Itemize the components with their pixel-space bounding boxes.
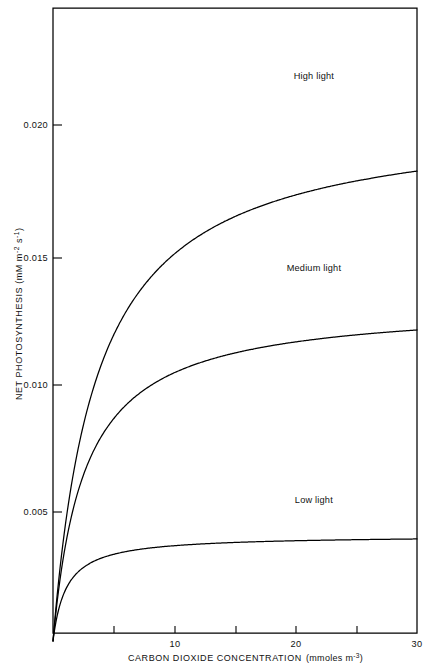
y-tick-label-0010: 0.010 xyxy=(24,380,49,390)
curve-medium-light xyxy=(53,330,417,641)
y-axis-ticks xyxy=(53,125,62,512)
curve-high-light xyxy=(53,171,417,641)
chart-canvas: 0.005 0.010 0.015 0.020 10 20 30 High xyxy=(0,0,429,664)
x-axis-tick-labels: 10 20 30 xyxy=(170,639,423,649)
y-title-exponent-2: -1 xyxy=(13,231,20,238)
y-title-close: ) xyxy=(14,228,24,232)
x-axis-title-main: CARBON DIOXIDE CONCENTRATION xyxy=(128,653,302,663)
x-tick-label-30: 30 xyxy=(412,639,423,649)
x-tick-label-10: 10 xyxy=(170,639,181,649)
x-units-open: (mmoles m xyxy=(306,653,353,663)
x-axis-title: CARBON DIOXIDE CONCENTRATION (mmoles m-3… xyxy=(128,652,363,663)
y-tick-label-0015: 0.015 xyxy=(24,253,49,263)
figure-container: 0.005 0.010 0.015 0.020 10 20 30 High xyxy=(0,0,429,664)
y-axis-title: NET PHOTOSYNTHESIS (mM m-2 s-1) xyxy=(13,228,24,401)
y-tick-label-0020: 0.020 xyxy=(24,120,49,130)
x-units-close: ) xyxy=(360,653,363,663)
curve-label-low-light: Low light xyxy=(295,495,333,505)
y-axis-title-text: NET PHOTOSYNTHESIS (mM m-2 s-1) xyxy=(13,228,24,401)
x-axis-ticks xyxy=(114,626,357,633)
y-title-main: NET PHOTOSYNTHESIS (mM m xyxy=(14,253,24,400)
y-title-mid: s xyxy=(14,238,24,246)
curve-low-light xyxy=(53,539,417,641)
x-tick-label-20: 20 xyxy=(291,639,302,649)
curve-label-high-light: High light xyxy=(294,71,335,81)
y-tick-label-0005: 0.005 xyxy=(24,507,49,517)
curve-labels: High light Medium light Low light xyxy=(287,71,342,505)
x-axis-title-units: (mmoles m-3) xyxy=(306,652,363,663)
data-curves xyxy=(53,171,417,641)
y-axis-tick-labels: 0.005 0.010 0.015 0.020 xyxy=(24,120,49,517)
y-title-exponent-1: -2 xyxy=(13,246,20,253)
curve-label-medium-light: Medium light xyxy=(287,263,342,273)
